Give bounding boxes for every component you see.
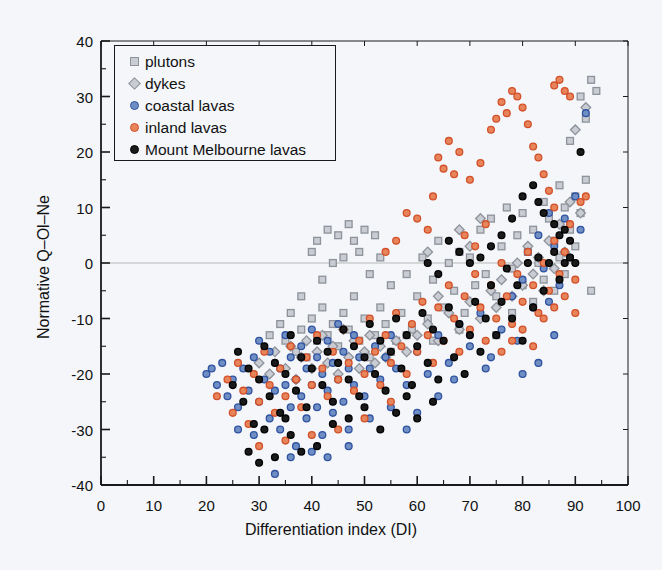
- data-point: [361, 226, 368, 233]
- data-point: [540, 276, 547, 283]
- data-point: [287, 432, 294, 439]
- x-axis-title: Differentiation index (DI): [0, 521, 662, 539]
- data-point: [488, 282, 495, 289]
- data-point: [514, 271, 521, 278]
- legend-item-dykes[interactable]: dykes: [123, 73, 335, 94]
- data-point: [546, 298, 553, 305]
- data-point: [461, 232, 468, 239]
- data-point: [498, 260, 505, 267]
- chart-legend: plutonsdykescoastal lavasinland lavasMou…: [114, 45, 336, 161]
- data-point: [250, 371, 257, 378]
- data-point: [445, 304, 452, 311]
- data-point: [314, 443, 321, 450]
- legend-item-label: coastal lavas: [145, 98, 235, 114]
- data-point: [240, 398, 247, 405]
- data-point: [398, 365, 405, 372]
- data-point: [314, 354, 321, 361]
- data-point: [403, 210, 410, 217]
- data-point: [451, 287, 458, 294]
- legend-item-inland-lavas[interactable]: inland lavas: [123, 117, 335, 138]
- data-point: [345, 221, 352, 228]
- data-point: [351, 293, 358, 300]
- data-point: [440, 165, 447, 172]
- data-point: [556, 254, 563, 261]
- legend-item-mount-melbourne-lavas[interactable]: Mount Melbourne lavas: [123, 139, 335, 160]
- data-point: [329, 398, 336, 405]
- legend-item-coastal-lavas[interactable]: coastal lavas: [123, 95, 335, 116]
- data-point: [530, 143, 537, 150]
- legend-item-plutons[interactable]: plutons: [123, 51, 335, 72]
- data-point: [424, 332, 431, 339]
- data-point: [298, 393, 305, 400]
- data-point: [340, 398, 347, 405]
- data-point: [498, 326, 505, 333]
- data-point: [535, 310, 542, 317]
- data-point: [451, 354, 458, 361]
- y-tick-label: 30: [43, 88, 93, 105]
- data-point: [229, 409, 236, 416]
- data-point: [324, 454, 331, 461]
- data-point: [287, 354, 294, 361]
- data-point: [519, 371, 526, 378]
- data-point: [419, 254, 426, 261]
- data-point: [219, 360, 226, 367]
- data-point: [582, 193, 589, 200]
- data-point: [324, 348, 331, 355]
- data-point: [456, 249, 463, 256]
- data-point: [503, 265, 510, 272]
- data-point: [340, 254, 347, 261]
- data-point: [430, 398, 437, 405]
- data-point: [514, 93, 521, 100]
- data-point: [303, 404, 310, 411]
- legend-marker-glyph: [128, 77, 141, 90]
- data-point: [530, 182, 537, 189]
- data-point: [498, 99, 505, 106]
- data-point: [282, 393, 289, 400]
- data-point: [256, 376, 263, 383]
- data-point: [377, 337, 384, 344]
- data-point: [340, 348, 347, 355]
- data-point: [282, 371, 289, 378]
- data-point: [556, 76, 563, 83]
- data-point: [467, 260, 474, 267]
- data-point: [540, 171, 547, 178]
- data-point: [261, 343, 268, 350]
- y-tick-label: 40: [43, 33, 93, 50]
- data-point: [572, 193, 579, 200]
- data-point: [577, 199, 584, 206]
- x-tick-label: 100: [615, 497, 640, 514]
- data-point: [519, 326, 526, 333]
- data-point: [329, 421, 336, 428]
- data-point: [287, 332, 294, 339]
- data-point: [524, 260, 531, 267]
- data-point: [535, 232, 542, 239]
- data-point: [503, 110, 510, 117]
- data-point: [314, 337, 321, 344]
- data-point: [561, 226, 568, 233]
- data-point: [308, 326, 315, 333]
- data-point: [266, 382, 273, 389]
- data-point: [282, 415, 289, 422]
- data-point: [240, 387, 247, 394]
- data-point: [445, 260, 452, 267]
- data-point: [519, 337, 526, 344]
- data-point: [498, 298, 505, 305]
- circle-orange-icon: [123, 123, 145, 132]
- data-point: [519, 276, 526, 283]
- data-point: [403, 271, 410, 278]
- data-point: [530, 304, 537, 311]
- data-point: [477, 254, 484, 261]
- y-tick-label: -40: [43, 477, 93, 494]
- data-point: [519, 193, 526, 200]
- data-point: [272, 471, 279, 478]
- legend-marker-glyph: [130, 123, 139, 132]
- data-point: [509, 337, 516, 344]
- data-point: [482, 365, 489, 372]
- data-point: [372, 232, 379, 239]
- data-point: [488, 354, 495, 361]
- data-point: [277, 321, 284, 328]
- data-point: [561, 215, 568, 222]
- data-point: [235, 360, 242, 367]
- data-point: [319, 365, 326, 372]
- data-point: [488, 215, 495, 222]
